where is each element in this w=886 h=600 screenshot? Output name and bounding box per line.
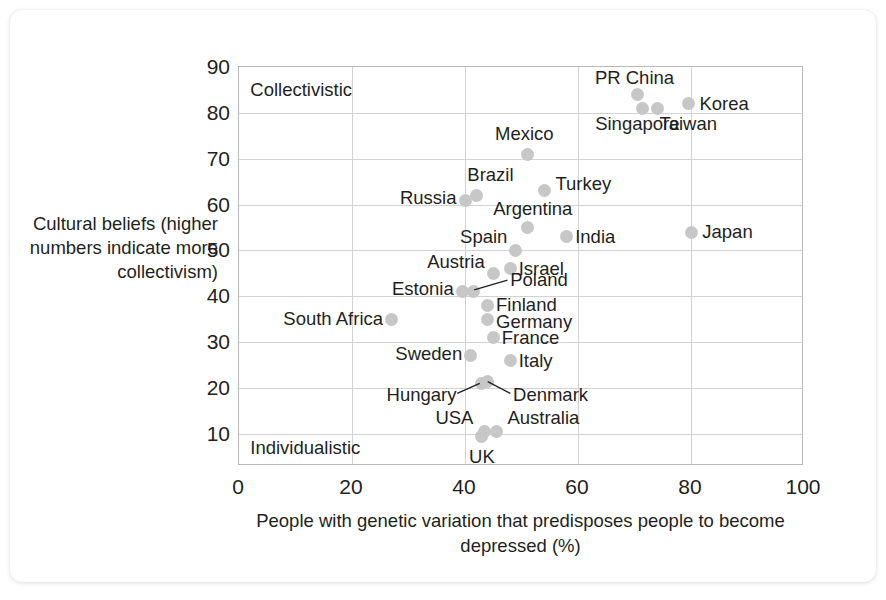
x-axis-tick-label: 0	[208, 476, 268, 497]
x-axis-tick-label: 40	[434, 476, 494, 497]
point-label-brazil: Brazil	[467, 166, 513, 185]
scatter-plot-figure: 102030405060708090 Cultural beliefs (hig…	[0, 0, 886, 600]
y-axis-tick-label: 80	[170, 102, 230, 123]
point-label-sweden: Sweden	[395, 344, 462, 363]
point-label-pr-china: PR China	[595, 69, 674, 88]
data-point-france	[487, 331, 500, 344]
point-label-hungary: Hungary	[387, 386, 457, 405]
plot-annotation-individualistic: Individualistic	[250, 439, 360, 458]
point-label-denmark: Denmark	[513, 386, 588, 405]
gridline-horizontal	[239, 159, 802, 160]
data-point-japan	[685, 226, 698, 239]
data-point-pr-china	[631, 88, 644, 101]
point-label-taiwan: Taiwan	[659, 115, 717, 134]
x-axis-tick-label: 60	[547, 476, 607, 497]
point-label-italy: Italy	[519, 351, 553, 370]
point-label-poland: Poland	[510, 271, 568, 290]
x-axis-tick-label: 20	[321, 476, 381, 497]
y-axis-tick-label: 40	[170, 285, 230, 306]
point-label-south-africa: South Africa	[283, 310, 383, 329]
data-point-denmark	[481, 375, 494, 388]
data-point-india	[560, 230, 573, 243]
data-point-mexico	[521, 148, 534, 161]
point-label-turkey: Turkey	[555, 175, 611, 194]
point-label-argentina: Argentina	[493, 200, 572, 219]
data-point-australia	[490, 425, 503, 438]
plot-annotation-collectivistic: Collectivistic	[250, 81, 352, 100]
y-axis-tick-label: 20	[170, 377, 230, 398]
point-label-russia: Russia	[400, 188, 457, 207]
y-axis-title: Cultural beliefs (higher numbers indicat…	[22, 212, 218, 284]
point-label-usa: USA	[435, 409, 473, 428]
gridline-vertical	[352, 67, 353, 464]
x-axis-tick-label: 80	[660, 476, 720, 497]
y-axis-tick-label: 30	[170, 331, 230, 352]
point-label-uk: UK	[469, 448, 495, 467]
point-label-australia: Australia	[507, 409, 579, 428]
data-point-south-africa	[385, 313, 398, 326]
x-axis-title: People with genetic variation that predi…	[238, 508, 803, 558]
data-point-argentina	[521, 221, 534, 234]
x-axis-tick-labels: 020406080100	[238, 476, 803, 506]
point-label-mexico: Mexico	[495, 124, 554, 143]
y-axis-tick-labels: 102030405060708090	[168, 0, 230, 600]
point-label-spain: Spain	[460, 227, 507, 246]
data-point-uk	[475, 430, 488, 443]
data-point-italy	[504, 354, 517, 367]
data-point-austria	[487, 267, 500, 280]
data-point-sweden	[464, 349, 477, 362]
data-point-germany	[481, 313, 494, 326]
y-axis-tick-label: 10	[170, 423, 230, 444]
data-point-turkey	[538, 184, 551, 197]
gridline-horizontal	[239, 434, 802, 435]
point-label-india: India	[575, 227, 615, 246]
point-label-estonia: Estonia	[392, 280, 454, 299]
point-label-japan: Japan	[702, 223, 752, 242]
point-label-austria: Austria	[427, 253, 485, 272]
data-point-brazil	[470, 189, 483, 202]
y-axis-tick-label: 90	[170, 56, 230, 77]
plot-area: CollectivisticIndividualistic PR ChinaKo…	[238, 66, 803, 465]
data-point-russia	[459, 194, 472, 207]
x-axis-tick-label: 100	[773, 476, 833, 497]
point-label-korea: Korea	[699, 94, 748, 113]
data-point-finland	[481, 299, 494, 312]
data-point-spain	[509, 244, 522, 257]
y-axis-tick-label: 70	[170, 148, 230, 169]
point-label-france: France	[502, 328, 560, 347]
data-point-korea	[682, 97, 695, 110]
